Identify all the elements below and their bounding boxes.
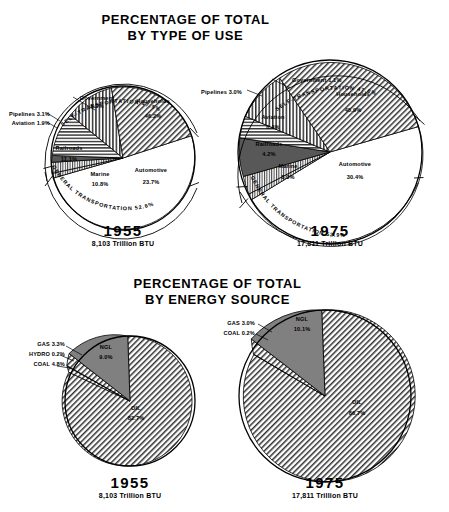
label-railroads-1975: Railroads 4.2% [248, 140, 290, 158]
label-coal-1975: COAL 0.2% [196, 329, 255, 337]
label-gas-1975: GAS 3.0% [200, 319, 255, 327]
label-gas-1955: GAS 3.3% [10, 340, 65, 348]
pie-1955-energy-source [62, 335, 195, 466]
panel-energy-source: PERCENTAGE OF TOTAL BY ENERGY SOURCE [0, 256, 449, 512]
label-automotive-1975: Automotive 30.4% [330, 160, 380, 181]
label-pipelines-1975: Pipelines 3.0% [180, 88, 242, 96]
label-households-1955: Households 46.2% [130, 97, 176, 120]
label-marine-1975: Marine 8.9% [268, 162, 308, 181]
label-households-1975: Households 45.9% [328, 90, 378, 114]
year-label-1955-source: 1955 [50, 474, 210, 491]
type-of-use-charts: SELF-TRANSPORTATION 47.5% GENERAL TRANSP… [0, 0, 449, 256]
year-label-1975-use: 1975 [250, 222, 410, 239]
label-government-1975: Government 1.1% [292, 76, 362, 84]
label-railroads-1955: Railroads 11.1% [48, 144, 90, 163]
year-label-1975-source: 1975 [245, 474, 405, 491]
label-oil-1975: OIL 86.7% [340, 398, 374, 417]
label-pipelines-1955: Pipelines 3.1% [2, 110, 50, 118]
label-marine-1955: Marine 10.8% [80, 170, 120, 188]
label-ngl-1975: NGL 10.1% [285, 315, 319, 333]
label-coal-1955: COAL 4.8% [6, 360, 65, 368]
panel-type-of-use: PERCENTAGE OF TOTAL BY TYPE OF USE [0, 0, 449, 256]
label-government-1955: Government 1.3% [75, 94, 119, 110]
label-aviation-1955: Aviation 1.9% [2, 119, 50, 127]
btu-label-1975-source: 17,811 Trillion BTU [245, 492, 405, 499]
label-aviation-1975: Aviation 6.4% [253, 113, 293, 131]
label-oil-1955: OIL 82.7% [120, 404, 152, 422]
label-hydro-1955: HYDRO 0.2% [4, 350, 65, 358]
label-automotive-1955: Automotive 23.7% [127, 166, 175, 186]
pie-1975-energy-source [239, 310, 415, 482]
year-label-1955-use: 1955 [43, 222, 203, 239]
label-ngl-1955: NGL 9.0% [90, 343, 122, 361]
btu-label-1955-source: 8,103 Trillion BTU [50, 492, 210, 499]
btu-label-1955-use: 8,103 Trillion BTU [43, 240, 203, 247]
btu-label-1975-use: 17,811 Trillion BTU [250, 240, 410, 247]
